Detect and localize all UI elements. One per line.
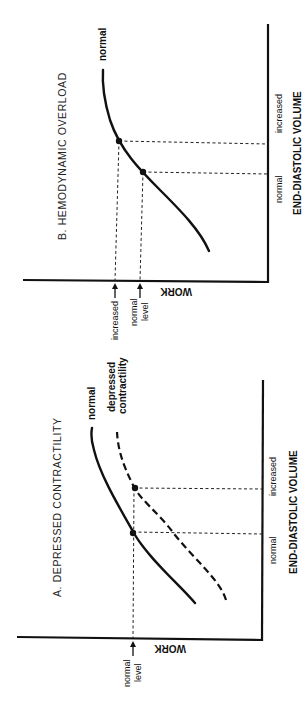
panel-a-guide-normal-h — [133, 532, 262, 534]
panel-b-edv-axis-label: END-DIASTOLIC VOLUME — [292, 91, 303, 215]
panel-b-guide-normal-v — [140, 172, 143, 281]
panel-a-guide-increased-h — [134, 488, 262, 489]
panel-b-point-normal — [140, 169, 146, 175]
diagram-canvas: B. HEMODYNAMIC OVERLOAD normal normal in… — [0, 0, 305, 723]
panel-a-title: A. DEPRESSED CONTRACTILITY — [51, 417, 63, 597]
panel-b-marker-level: level — [140, 302, 150, 321]
panel-a-edv-axis — [262, 380, 263, 641]
panel-b-marker-increased: increased — [110, 301, 120, 340]
panel-b-guide-increased-h — [119, 141, 268, 144]
panel-b: B. HEMODYNAMIC OVERLOAD normal normal in… — [23, 24, 303, 340]
panel-a-point-normal — [130, 530, 136, 536]
panel-a-point-depressed — [132, 485, 138, 491]
panel-b-normal-curve — [103, 70, 209, 251]
panel-a-arrowhead-normal — [130, 641, 136, 647]
panel-b-title: B. HEMODYNAMIC OVERLOAD — [56, 72, 68, 240]
panel-b-arrowhead-increased — [112, 283, 118, 289]
panel-a-work-axis — [17, 637, 262, 640]
panel-b-point-increased — [116, 138, 122, 144]
panel-b-curve-label-normal: normal — [97, 27, 108, 61]
panel-a-curve-label-contractility: contractility — [117, 357, 128, 414]
panel-a-normal-curve — [91, 428, 195, 603]
panel-a-marker-normal: normal — [122, 659, 132, 687]
panel-a-curve-label-normal: normal — [86, 386, 97, 420]
panel-a-curve-label-depressed: depressed — [106, 362, 117, 412]
panel-b-edv-tick-normal: normal — [274, 175, 284, 203]
panel-b-edv-tick-increased: increased — [274, 94, 284, 133]
panel-a-edv-tick-normal: normal — [268, 536, 278, 564]
panel-a-work-axis-label: WORK — [154, 643, 186, 654]
panel-a-edv-axis-label: END-DIASTOLIC VOLUME — [288, 450, 299, 574]
panel-b-arrowhead-normal — [137, 283, 143, 289]
panel-a: A. DEPRESSED CONTRACTILITY normal depres… — [17, 357, 299, 687]
panel-b-guide-normal-h — [143, 172, 268, 174]
panel-b-guide-increased-v — [115, 141, 119, 281]
panel-a-marker-level: level — [133, 663, 143, 682]
panel-a-guide-normal-level-v — [133, 488, 134, 638]
panel-b-work-axis-label: WORK — [160, 286, 192, 297]
panel-b-work-axis — [23, 280, 268, 282]
panel-b-marker-normal: normal — [129, 298, 139, 326]
panel-a-edv-tick-increased: increased — [268, 457, 278, 496]
